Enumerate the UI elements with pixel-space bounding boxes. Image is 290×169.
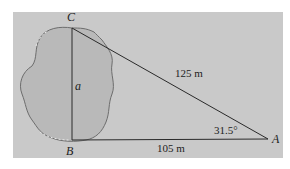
triangle-diagram [0,0,290,169]
angle-a-label: 31.5° [214,125,238,136]
pond-shape [20,27,113,141]
vertex-b-label: B [66,145,73,157]
vertex-c-label: C [67,11,75,23]
side-ba-length: 105 m [157,143,185,154]
side-a-label: a [75,80,81,92]
vertex-a-label: A [272,133,279,145]
side-ba [72,139,268,140]
side-ca-length: 125 m [175,68,203,79]
